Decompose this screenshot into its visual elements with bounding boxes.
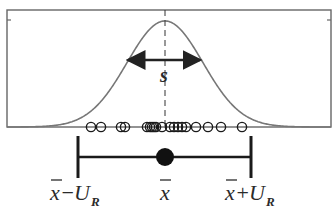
upper-bound-label: x +UR <box>224 180 275 209</box>
plot-frame <box>7 10 331 127</box>
spread-label: s <box>159 64 168 86</box>
frame-border <box>7 10 331 127</box>
uncertainty-diagram: s x −UR x x +UR <box>0 0 335 217</box>
uncertainty-interval <box>78 136 251 178</box>
mean-dot <box>156 148 174 166</box>
interval-labels: x −UR x x +UR <box>49 180 275 209</box>
normal-distribution-curve <box>7 21 331 127</box>
mean-label: x <box>159 180 170 205</box>
lower-bound-label: x −UR <box>49 180 100 209</box>
